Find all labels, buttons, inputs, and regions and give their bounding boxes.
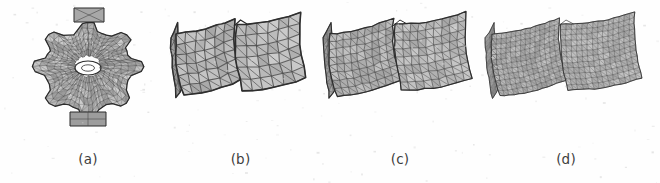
subfigure-c: (c) (320, 0, 480, 183)
subfigure-b: (b) (168, 0, 313, 183)
caption-b: (b) (168, 151, 313, 167)
coarse-slab-mesh-svg (168, 0, 313, 140)
gear-disc-mesh-svg (8, 0, 168, 140)
fine-slab-mesh-svg (482, 0, 650, 140)
medium-slab-mesh-svg (320, 0, 480, 140)
caption-a: (a) (8, 151, 168, 167)
caption-c: (c) (320, 151, 480, 167)
subfigure-d: (d) (482, 0, 650, 183)
caption-d: (d) (482, 151, 650, 167)
coarse-slab-mesh (168, 0, 313, 140)
figure-panel: (a) (b) (c) (d) (0, 0, 660, 183)
fine-slab-mesh (482, 0, 650, 140)
gear-disc-mesh (8, 0, 168, 140)
subfigure-a: (a) (8, 0, 168, 183)
medium-slab-mesh (320, 0, 480, 140)
